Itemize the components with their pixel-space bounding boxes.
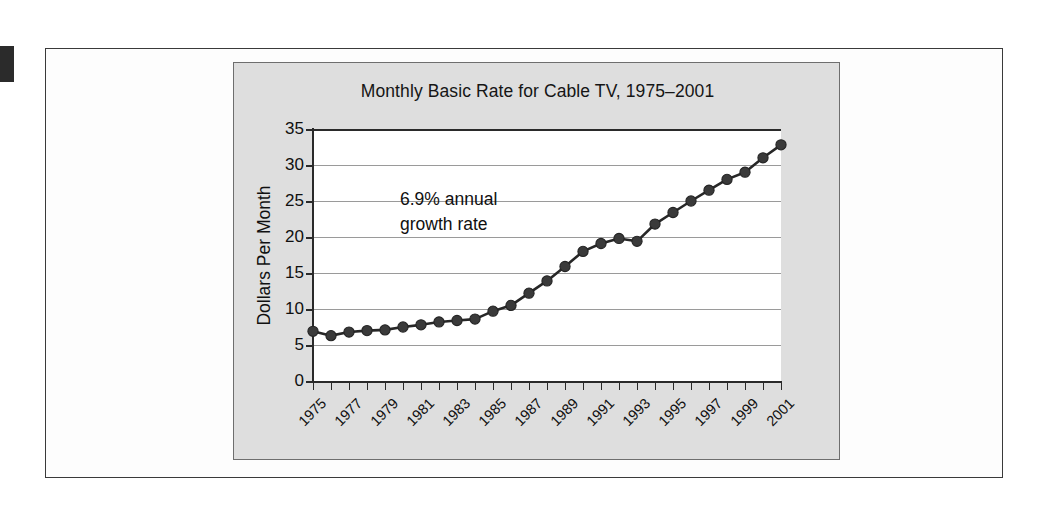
y-tick-label: 25	[285, 191, 304, 211]
data-point	[578, 246, 588, 256]
y-tick-label: 35	[285, 119, 304, 139]
y-tick-label: 5	[295, 335, 304, 355]
data-point	[434, 317, 444, 327]
x-tick-label: 1999	[727, 395, 761, 429]
data-point	[362, 326, 372, 336]
x-tick-label: 1979	[367, 395, 401, 429]
y-tick-label: 20	[285, 227, 304, 247]
page-edge-mark	[0, 46, 14, 82]
x-axis-line	[312, 381, 782, 383]
data-point	[632, 236, 642, 246]
x-tick-label: 1991	[583, 395, 617, 429]
data-point	[326, 331, 336, 341]
data-point	[758, 153, 768, 163]
series-line	[313, 145, 781, 336]
data-point	[470, 314, 480, 324]
annotation-line-1: 6.9% annual	[400, 187, 497, 212]
data-series	[313, 129, 781, 381]
y-tick-label: 30	[285, 155, 304, 175]
y-axis-title-label: Dollars Per Month	[254, 185, 275, 325]
data-point	[614, 233, 624, 243]
data-point	[740, 167, 750, 177]
data-point	[452, 315, 462, 325]
data-point	[596, 238, 606, 248]
data-point	[488, 306, 498, 316]
data-point	[722, 174, 732, 184]
data-point	[398, 322, 408, 332]
data-point	[344, 327, 354, 337]
plot-area: 05101520253035 1975197719791981198319851…	[313, 129, 781, 381]
x-tick-label: 1995	[655, 395, 689, 429]
y-tick-label: 15	[285, 263, 304, 283]
y-axis-title: Dollars Per Month	[252, 129, 276, 381]
data-point	[542, 276, 552, 286]
data-point	[776, 140, 786, 150]
data-point	[704, 185, 714, 195]
x-tick-label: 1985	[475, 395, 509, 429]
x-tick-label: 1993	[619, 395, 653, 429]
annotation-line-2: growth rate	[400, 212, 497, 237]
data-point	[506, 300, 516, 310]
growth-rate-annotation: 6.9% annual growth rate	[400, 187, 497, 238]
x-tick-label: 1989	[547, 395, 581, 429]
x-tick-label: 1983	[439, 395, 473, 429]
x-tick-label: 2001	[763, 395, 797, 429]
data-point	[560, 261, 570, 271]
x-tick-label: 1975	[295, 395, 329, 429]
series-markers	[308, 140, 786, 341]
x-tick-label: 1977	[331, 395, 365, 429]
data-point	[380, 325, 390, 335]
chart-title: Monthly Basic Rate for Cable TV, 1975–20…	[234, 81, 841, 102]
data-point	[650, 219, 660, 229]
y-tick-label: 10	[285, 299, 304, 319]
y-tick-label: 0	[295, 371, 304, 391]
x-tick-label: 1987	[511, 395, 545, 429]
data-point	[308, 326, 318, 336]
x-tick-label: 1981	[403, 395, 437, 429]
x-tick-label: 1997	[691, 395, 725, 429]
data-point	[416, 320, 426, 330]
data-point	[686, 196, 696, 206]
data-point	[668, 207, 678, 217]
chart-panel: Monthly Basic Rate for Cable TV, 1975–20…	[233, 62, 840, 460]
data-point	[524, 288, 534, 298]
